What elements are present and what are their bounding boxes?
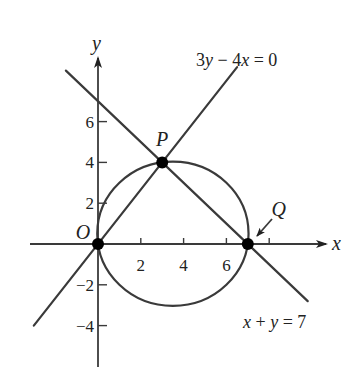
x-tick-label: 2 bbox=[137, 256, 146, 275]
equation-label-x-plus-y: x + y = 7 bbox=[242, 312, 306, 332]
x-axis-label: x bbox=[331, 232, 341, 254]
equation-label-3y-minus-4x: 3y − 4x = 0 bbox=[196, 50, 277, 70]
circle bbox=[97, 162, 248, 306]
x-tick-label: 4 bbox=[179, 256, 188, 275]
y-tick-label: −4 bbox=[76, 317, 95, 336]
point-label-p: P bbox=[155, 128, 168, 150]
point-o bbox=[92, 238, 104, 250]
point-label-q: Q bbox=[272, 198, 287, 220]
line-3y-minus-4x bbox=[34, 67, 237, 325]
y-tick-label: −2 bbox=[76, 276, 94, 295]
point-label-o: O bbox=[76, 221, 90, 243]
x-tick-label: 6 bbox=[222, 256, 231, 275]
q-pointer-arrow bbox=[257, 219, 272, 236]
y-tick-label: 6 bbox=[86, 113, 95, 132]
y-tick-label: 4 bbox=[86, 153, 95, 172]
y-axis-label: y bbox=[90, 32, 101, 55]
coordinate-diagram: x y 246 642−2−4 3y − 4x = 0 x + y = 7 OP… bbox=[0, 0, 358, 380]
point-p bbox=[156, 156, 168, 168]
point-q bbox=[242, 238, 254, 250]
y-tick-label: 2 bbox=[86, 194, 95, 213]
